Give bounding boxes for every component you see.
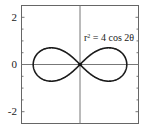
y-tick-label-neg2: -2	[3, 106, 17, 117]
polar-plot	[0, 0, 145, 132]
eq-rest: = 4 cos 2θ	[90, 32, 134, 43]
equation-annotation: r2 = 4 cos 2θ	[84, 32, 134, 43]
y-tick-label-0: 0	[3, 59, 17, 70]
eq-exponent: 2	[87, 33, 90, 39]
y-tick-label-2: 2	[3, 12, 17, 23]
origin-point	[78, 63, 82, 67]
